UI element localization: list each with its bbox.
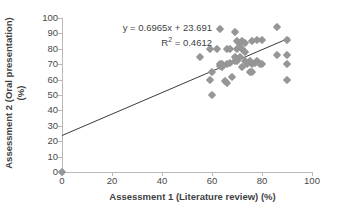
y-axis-tick-mark	[58, 95, 62, 96]
x-axis-tick-label: 0	[42, 175, 82, 186]
y-axis-tick-label: 70	[30, 59, 58, 69]
x-axis-tick-label: 80	[242, 175, 282, 186]
y-axis-tick-mark	[58, 49, 62, 50]
x-axis-tick-label: 20	[92, 175, 132, 186]
y-axis-tick-mark	[58, 157, 62, 158]
y-axis-tick-label: 20	[30, 136, 58, 146]
y-axis-tick-mark	[58, 33, 62, 34]
y-axis-tick-mark	[58, 110, 62, 111]
x-axis-title-text: Assessment 1 (Literature review) (%)	[75, 191, 275, 202]
y-axis-tick-label: 10	[30, 152, 58, 162]
y-axis-title-line2: (%)	[15, 9, 27, 177]
trendline-segment	[62, 38, 290, 136]
y-axis-tick-label: 100	[30, 13, 58, 23]
y-axis-tick-mark	[58, 64, 62, 65]
y-axis-tick-label: 90	[30, 28, 58, 38]
x-axis-tick-labels: 020406080100	[0, 175, 351, 189]
y-axis-tick-mark	[58, 18, 62, 19]
scatter-chart: Assessment 2 (Oral presentation) (%) 010…	[0, 0, 351, 212]
y-axis-tick-mark	[58, 141, 62, 142]
y-axis-tick-mark	[58, 126, 62, 127]
x-axis-title: Assessment 1 (Literature review) (%)	[0, 191, 351, 202]
y-axis-title: Assessment 2 (Oral presentation) (%)	[2, 10, 28, 175]
y-axis-tick-mark	[58, 80, 62, 81]
y-axis-tick-label: 60	[30, 75, 58, 85]
x-axis-tick-label: 40	[142, 175, 182, 186]
plot-area	[62, 18, 312, 172]
y-axis-tick-label: 50	[30, 90, 58, 100]
y-axis-tick-label: 30	[30, 121, 58, 131]
x-axis-line	[62, 172, 312, 173]
y-axis-title-line1: Assessment 2 (Oral presentation)	[3, 9, 15, 177]
x-axis-tick-label: 100	[292, 175, 332, 186]
trendline	[62, 18, 312, 172]
x-axis-tick-label: 60	[192, 175, 232, 186]
y-axis-tick-label: 80	[30, 44, 58, 54]
y-axis-tick-label: 40	[30, 105, 58, 115]
